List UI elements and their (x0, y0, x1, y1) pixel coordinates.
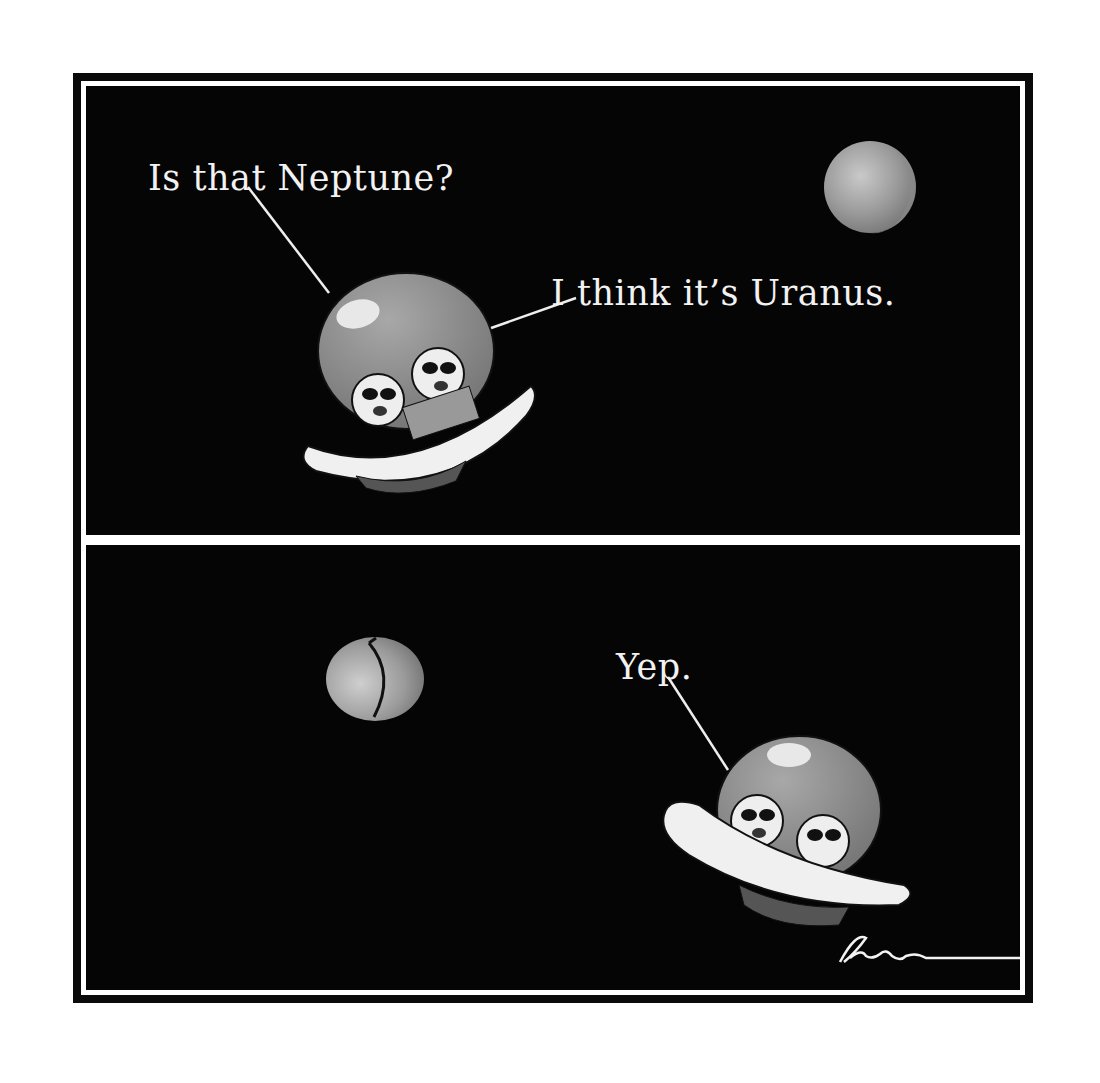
panel-2: Yep. Rogan (86, 545, 1020, 990)
speech-pointer-1 (248, 187, 329, 293)
comic-frame: Is that Neptune? I think it’s Uranus. (73, 73, 1033, 1003)
caption-yep: Yep. (616, 647, 692, 687)
caption-uranus: I think it’s Uranus. (551, 273, 895, 313)
left-alien-icon (352, 374, 404, 426)
ufo-icon (663, 736, 910, 926)
planet-icon (824, 141, 916, 233)
butt-planet-icon (326, 637, 424, 721)
speech-pointer-3 (668, 677, 728, 770)
ufo-icon (304, 273, 536, 493)
panel-1: Is that Neptune? I think it’s Uranus. (86, 86, 1020, 535)
caption-neptune: Is that Neptune? (148, 158, 454, 198)
panel-2-art (86, 545, 1020, 989)
signature-icon (840, 937, 1020, 962)
right-alien-icon (797, 815, 849, 867)
frame-white-border: Is that Neptune? I think it’s Uranus. (81, 81, 1025, 995)
